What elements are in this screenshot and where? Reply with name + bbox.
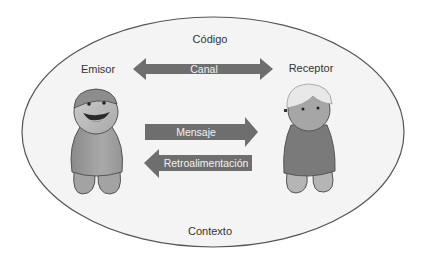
- channel-arrow-label: Canal: [190, 63, 217, 75]
- message-arrow-label: Mensaje: [176, 126, 216, 138]
- receiver-label: Receptor: [289, 62, 334, 74]
- context-label: Contexto: [188, 225, 232, 237]
- code-label: Código: [193, 33, 228, 45]
- sender-label: Emisor: [81, 63, 115, 75]
- feedback-arrow-label: Retroalimentación: [164, 157, 249, 169]
